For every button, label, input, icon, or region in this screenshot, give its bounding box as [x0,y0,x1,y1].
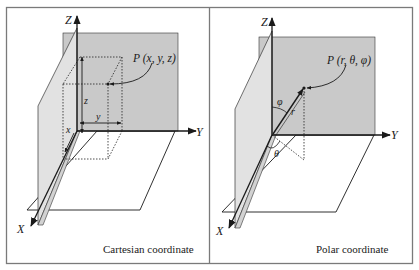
point-p [106,82,109,85]
r-label: r [291,106,295,117]
coordinate-systems-figure: Z Y X P (x, y, z) z y x Cartesian coordi… [0,0,419,270]
x-axis-label: X [16,222,25,236]
x-axis-label: X [215,224,224,238]
point-label: P (x, y, z) [132,52,176,65]
x-component-label: x [65,124,71,135]
z-axis-label: Z [261,15,268,29]
y-axis-label: Y [196,125,204,139]
z-component-label: z [83,95,88,106]
z-axis-label: Z [65,13,72,27]
cartesian-caption: Cartesian coordinate [103,243,194,255]
theta-label: θ [274,148,279,159]
polar-caption: Polar coordinate [316,243,389,255]
yz-plane [259,37,375,135]
y-component-label: y [95,111,101,122]
point-p [302,86,305,89]
phi-label: φ [277,96,283,107]
yz-plane [63,33,178,131]
polar-panel: Z Y X P (r, θ, φ) φ r θ Polar coordinate [215,15,399,255]
cartesian-panel: Z Y X P (x, y, z) z y x Cartesian coordi… [16,13,204,255]
point-label: P (r, θ, φ) [326,54,371,67]
y-axis-label: Y [391,128,399,142]
